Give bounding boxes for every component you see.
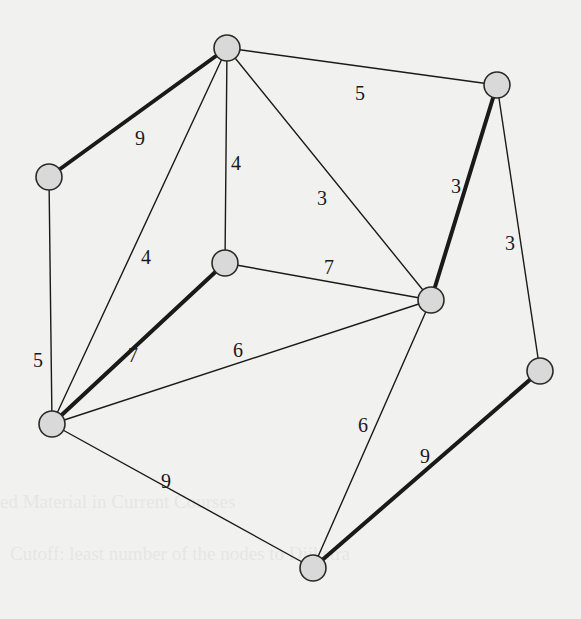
graph-node-F <box>527 358 553 384</box>
graph-node-B <box>484 72 510 98</box>
weighted-graph-diagram: ed Material in Current CoursesCutoff: le… <box>0 0 581 619</box>
edge-B-E-highlighted <box>431 85 497 300</box>
edge-weight-label: 3 <box>505 232 515 254</box>
edge-F-H-highlighted <box>313 371 540 568</box>
graph-node-D <box>212 250 238 276</box>
edge-E-H <box>313 300 431 568</box>
edge-weights-layer: 95443577633969 <box>33 82 515 492</box>
edge-D-G-highlighted <box>52 263 225 424</box>
edge-weight-label: 4 <box>141 246 151 268</box>
edge-weight-label: 9 <box>420 445 430 467</box>
edge-weight-label: 4 <box>231 152 241 174</box>
graph-node-C <box>36 164 62 190</box>
edges-layer <box>49 48 540 568</box>
edge-A-D <box>225 48 227 263</box>
edge-A-C-highlighted <box>49 48 227 177</box>
edge-weight-label: 3 <box>317 187 327 209</box>
graph-node-A <box>214 35 240 61</box>
edge-weight-label: 6 <box>233 339 243 361</box>
edge-A-B <box>227 48 497 85</box>
edge-A-G <box>52 48 227 424</box>
edge-weight-label: 9 <box>135 127 145 149</box>
edge-weight-label: 5 <box>33 349 43 371</box>
show-through-text-layer: ed Material in Current CoursesCutoff: le… <box>0 491 351 564</box>
edge-weight-label: 6 <box>358 414 368 436</box>
graph-node-E <box>418 287 444 313</box>
graph-figure: ed Material in Current CoursesCutoff: le… <box>0 0 581 619</box>
edge-weight-label: 3 <box>451 175 461 197</box>
edge-weight-label: 5 <box>355 82 365 104</box>
edge-weight-label: 7 <box>128 344 138 366</box>
show-through-text: ed Material in Current Courses <box>0 491 235 512</box>
edge-weight-label: 7 <box>324 256 334 278</box>
edge-weight-label: 9 <box>161 470 171 492</box>
graph-node-H <box>300 555 326 581</box>
edge-G-E <box>52 300 431 424</box>
graph-node-G <box>39 411 65 437</box>
edge-C-G <box>49 177 52 424</box>
edge-B-F <box>497 85 540 371</box>
